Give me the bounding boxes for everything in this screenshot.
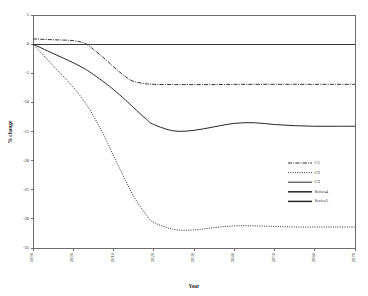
x-tick-label: 1990 <box>29 252 34 262</box>
y-tick-label: -15 <box>23 129 30 134</box>
chart-container: 50-5-10-15-20-25-30-35 19902000201020202… <box>0 0 368 296</box>
y-tick-label: -35 <box>23 245 30 250</box>
legend-label-c3: C3 <box>315 179 321 184</box>
legend-label-c1: C1 <box>315 160 321 165</box>
y-tick-label: -30 <box>23 216 30 221</box>
x-tick-label: 2000 <box>69 252 74 262</box>
series-line-c1 <box>33 39 355 85</box>
x-tick-label: 2020 <box>150 252 155 262</box>
line-chart: 50-5-10-15-20-25-30-35 19902000201020202… <box>0 0 368 296</box>
x-axis-title: Year <box>189 283 200 289</box>
y-tick-label: -5 <box>25 70 30 75</box>
y-tick-label: -20 <box>23 158 30 163</box>
series-line-c2 <box>33 44 355 230</box>
y-tick-label: -25 <box>23 187 30 192</box>
x-tick-label: 2060 <box>311 252 316 262</box>
y-axis-tick-labels: 50-5-10-15-20-25-30-35 <box>23 12 30 250</box>
legend-label-c2: C2 <box>315 170 321 175</box>
x-tick-label: 2040 <box>230 252 235 262</box>
x-tick-label: 2030 <box>190 252 195 262</box>
y-tick-label: 5 <box>27 12 30 17</box>
plot-frame <box>33 15 355 248</box>
legend-label-series4: Series4 <box>315 189 329 194</box>
y-axis-title: % change <box>7 120 13 144</box>
x-tick-label: 2050 <box>271 252 276 262</box>
y-tick-label: -10 <box>23 99 30 104</box>
legend-label-series5: Series5 <box>315 198 329 203</box>
chart-legend: C1C2C3Series4Series5 <box>288 160 329 203</box>
series-line-c3 <box>33 44 355 131</box>
x-tick-label: 2070 <box>351 252 356 262</box>
x-tick-label: 2010 <box>110 252 115 262</box>
x-axis-tick-labels: 199020002010202020302040205020602070 <box>29 252 356 262</box>
y-tick-label: 0 <box>27 41 30 46</box>
